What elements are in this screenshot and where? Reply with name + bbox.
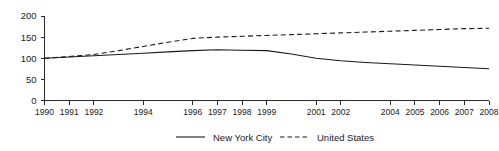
- x-tick-label: 1991: [60, 107, 79, 117]
- x-tick-label: 2002: [331, 107, 350, 117]
- x-tick-label: 2008: [480, 107, 499, 117]
- legend-label-new-york-city: New York City: [213, 132, 272, 143]
- x-tick-label: 1992: [84, 107, 103, 117]
- y-tick-label: 50: [26, 74, 37, 85]
- y-tick-label: 200: [21, 10, 37, 21]
- x-axis-tick-labels: 1990199119921994199619971998199920012002…: [35, 107, 499, 117]
- y-axis: 050100150200: [21, 10, 45, 106]
- series-line-new-york-city: [45, 50, 490, 69]
- x-tick-label: 1997: [208, 107, 227, 117]
- x-tick-label: 1994: [134, 107, 153, 117]
- x-axis-ticks: [45, 101, 490, 105]
- x-tick-label: 2001: [307, 107, 326, 117]
- line-chart: 050100150200 199019911992199419961997199…: [0, 0, 499, 151]
- x-tick-label: 2007: [455, 107, 474, 117]
- chart-legend: New York City United States: [176, 132, 374, 143]
- x-tick-label: 1998: [233, 107, 252, 117]
- x-tick-label: 1990: [35, 107, 54, 117]
- y-tick-label: 150: [21, 32, 37, 43]
- y-tick-label: 0: [31, 95, 36, 106]
- data-series-group: [45, 28, 490, 69]
- x-axis: 1990199119921994199619971998199920012002…: [35, 101, 499, 117]
- x-tick-label: 2004: [381, 107, 400, 117]
- y-axis-tick-labels: 050100150200: [21, 10, 37, 106]
- legend-label-united-states: United States: [317, 132, 374, 143]
- x-tick-label: 1999: [257, 107, 276, 117]
- series-line-united-states: [45, 28, 490, 58]
- x-tick-label: 2006: [430, 107, 449, 117]
- x-tick-label: 1996: [183, 107, 202, 117]
- y-axis-ticks: [41, 16, 45, 101]
- y-tick-label: 100: [21, 53, 37, 64]
- chart-canvas: 050100150200 199019911992199419961997199…: [0, 0, 499, 151]
- x-tick-label: 2005: [405, 107, 424, 117]
